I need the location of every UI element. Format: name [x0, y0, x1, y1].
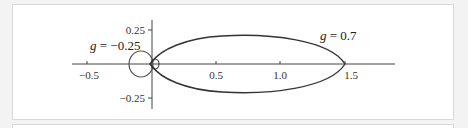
label-g-0.7: g = 0.7	[320, 28, 357, 43]
x-tick-label: 1.5	[344, 69, 358, 81]
chart-svg: −0.5 0.5 1.0 1.5 0.25 −0.25 g = −0.25 g …	[0, 0, 468, 128]
y-tick-label: 0.25	[126, 24, 146, 36]
x-tick-label: −0.5	[79, 69, 99, 81]
label-g-neg-0.25: g = −0.25	[90, 38, 140, 53]
y-tick-label: −0.25	[120, 92, 146, 104]
x-tick-label: 0.5	[209, 69, 223, 81]
x-tick-label: 1.0	[273, 69, 287, 81]
